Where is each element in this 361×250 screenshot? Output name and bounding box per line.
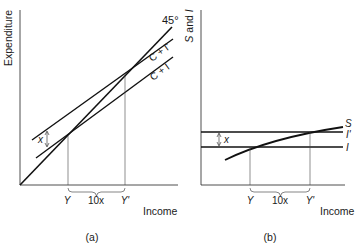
shift-label-x: x [37, 134, 44, 145]
y-axis-label: S and I [183, 9, 195, 42]
caption-b: (b) [264, 231, 277, 243]
bracket-label: 10x [88, 195, 104, 206]
y-axis-label: Expenditure [2, 10, 14, 66]
x-axis-label: Income [143, 205, 178, 217]
multiplier-diagram: Expenditure 45° C + I' C + I x Y 10x Y' … [0, 0, 361, 250]
mark-y-prime: Y' [121, 195, 131, 206]
mark-y-prime: Y' [306, 195, 316, 206]
label-c-plus-i: C + I [148, 61, 172, 82]
label-i-prime: I' [346, 129, 352, 140]
label-i: I [346, 142, 349, 153]
caption-a: (a) [86, 231, 99, 243]
line-45-degree [20, 27, 172, 185]
bracket-label: 10x [272, 195, 288, 206]
panel-b: S and I S I' I x Y 10x Y' Income (b) [183, 9, 355, 243]
panel-a: Expenditure 45° C + I' C + I x Y 10x Y' … [2, 10, 179, 243]
mark-y: Y [64, 195, 72, 206]
x-axis-label: Income [320, 205, 355, 217]
label-s: S [345, 118, 352, 129]
label-45: 45° [162, 14, 179, 26]
shift-label-x: x [223, 134, 230, 145]
mark-y: Y [247, 195, 255, 206]
